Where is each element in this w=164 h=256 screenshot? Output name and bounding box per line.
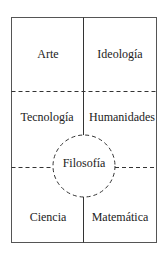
cell-label-ciencia: Ciencia bbox=[30, 210, 67, 224]
cell-label-matematica: Matemática bbox=[92, 210, 149, 224]
cell-label-humanidades: Humanidades bbox=[89, 110, 155, 124]
cell-label-ideologia: Ideología bbox=[97, 47, 143, 61]
center-label-filosofia: Filosofía bbox=[63, 156, 106, 170]
knowledge-diagram: Arte Ideología Tecnología Humanidades Fi… bbox=[0, 0, 164, 256]
cell-label-arte: Arte bbox=[37, 47, 58, 61]
cell-label-tecnologia: Tecnología bbox=[20, 110, 74, 124]
